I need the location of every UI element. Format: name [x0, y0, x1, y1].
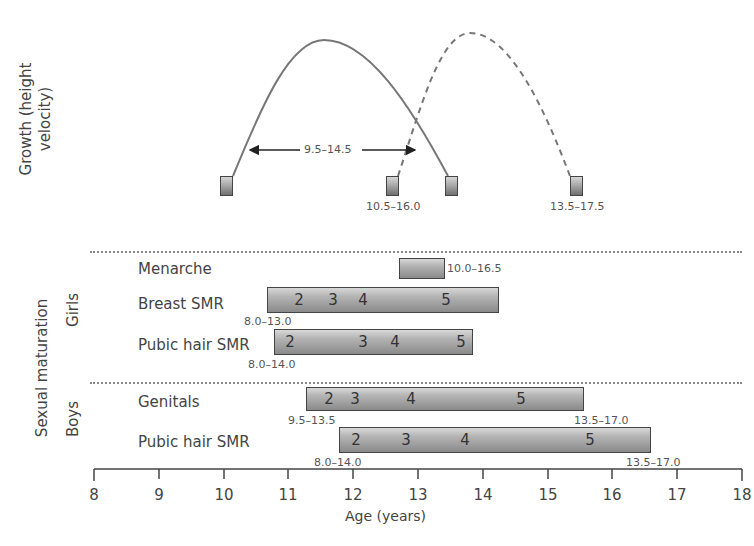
- stage-2: 2: [351, 431, 361, 449]
- x-tick-14: 14: [473, 486, 492, 504]
- boys-pubic-end-label: 13.5–17.0: [626, 456, 680, 469]
- genitals-start-label: 9.5–13.5: [288, 414, 336, 427]
- menarche-range-label: 10.0–16.5: [447, 262, 501, 275]
- stage-2: 2: [285, 333, 295, 351]
- stage-5: 5: [441, 291, 451, 309]
- breast-smr-bar: 2 3 4 5: [267, 287, 499, 313]
- row-label-boys-pubic-hair: Pubic hair SMR: [138, 433, 250, 451]
- row-label-genitals: Genitals: [138, 393, 200, 411]
- stage-4: 4: [460, 431, 470, 449]
- growth-y-axis-label: Growth (height velocity): [17, 49, 55, 189]
- stage-4: 4: [406, 390, 416, 408]
- boys-growth-start-marker: [386, 176, 399, 196]
- x-tick-10: 10: [214, 486, 233, 504]
- stage-2: 2: [294, 291, 304, 309]
- x-tick-9: 9: [154, 486, 164, 504]
- menarche-bar: [399, 258, 445, 279]
- sexual-maturation-label: Sexual maturation: [33, 298, 51, 438]
- stage-3: 3: [358, 333, 368, 351]
- girls-growth-start-marker: [220, 176, 233, 196]
- separator-girls-boys: [90, 382, 742, 384]
- boys-pubic-hair-bar: 2 3 4 5: [339, 427, 651, 453]
- stage-5: 5: [585, 431, 595, 449]
- boys-growth-onset-label: 10.5–16.0: [366, 200, 420, 213]
- stage-5: 5: [456, 333, 466, 351]
- boys-growth-end-label: 13.5–17.5: [550, 200, 604, 213]
- x-tick-12: 12: [343, 486, 362, 504]
- x-tick-16: 16: [602, 486, 621, 504]
- growth-y-label-line1: Growth (height: [17, 49, 36, 189]
- growth-y-label-line2: velocity): [36, 49, 55, 189]
- stage-3: 3: [401, 431, 411, 449]
- boys-pubic-start-label: 8.0–14.0: [314, 456, 362, 469]
- row-label-menarche: Menarche: [138, 260, 212, 278]
- breast-start-label: 8.0–13.0: [244, 315, 292, 328]
- growth-range-label: 9.5–14.5: [304, 143, 352, 156]
- boys-growth-end-marker: [570, 176, 583, 196]
- row-label-breast-smr: Breast SMR: [138, 295, 224, 313]
- x-tick-18: 18: [732, 486, 751, 504]
- girls-pubic-hair-bar: 2 3 4 5: [274, 329, 473, 355]
- genitals-end-label: 13.5–17.0: [574, 414, 628, 427]
- stage-2: 2: [324, 390, 334, 408]
- genitals-bar: 2 3 4 5: [306, 387, 584, 411]
- x-tick-8: 8: [89, 486, 99, 504]
- boys-group-label: Boys: [64, 399, 82, 439]
- stage-3: 3: [328, 291, 338, 309]
- stage-3: 3: [350, 390, 360, 408]
- separator-top: [90, 251, 742, 253]
- x-axis-label: Age (years): [345, 508, 426, 524]
- x-tick-15: 15: [538, 486, 557, 504]
- row-label-girls-pubic-hair: Pubic hair SMR: [138, 336, 250, 354]
- girls-growth-end-marker: [445, 176, 458, 196]
- x-tick-13: 13: [408, 486, 427, 504]
- stage-5: 5: [516, 390, 526, 408]
- x-axis-ticks: [94, 469, 742, 481]
- stage-4: 4: [358, 291, 368, 309]
- girls-pubic-start-label: 8.0–14.0: [248, 358, 296, 371]
- x-tick-17: 17: [667, 486, 686, 504]
- girls-group-label: Girls: [64, 290, 82, 330]
- x-tick-11: 11: [278, 486, 297, 504]
- stage-4: 4: [390, 333, 400, 351]
- boys-growth-curve: [398, 33, 570, 176]
